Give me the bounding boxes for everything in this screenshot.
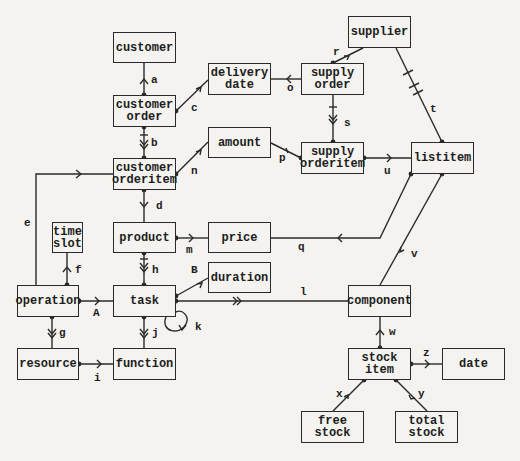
entity-time-slot: time slot [52, 222, 83, 253]
entity-resource: resource [17, 348, 79, 380]
rel-label-w: w [389, 327, 396, 338]
rel-label-s: s [344, 118, 351, 129]
rel-label-e: e [24, 218, 31, 229]
diagram-canvas: customer delivery date supplier customer… [0, 0, 520, 461]
entity-free-stock: free stock [301, 411, 364, 443]
entity-total-stock: total stock [395, 411, 458, 443]
rel-label-q: q [298, 242, 305, 253]
rel-label-a: a [151, 75, 158, 86]
entity-customer-orderitem: customer orderitem [113, 158, 176, 190]
rel-label-b: b [151, 138, 158, 149]
rel-label-r: r [333, 47, 340, 58]
entity-operation: operation [17, 285, 79, 317]
rel-label-c: c [191, 103, 198, 114]
rel-label-o: o [287, 83, 294, 94]
rel-label-d: d [156, 201, 163, 212]
rel-label-v: v [411, 249, 418, 260]
entity-supplier: supplier [348, 16, 411, 48]
rel-label-B: B [191, 265, 198, 276]
entity-listitem: listitem [411, 142, 474, 174]
entity-date: date [442, 348, 505, 380]
rel-label-t: t [430, 104, 437, 115]
entity-price: price [208, 222, 271, 253]
entity-supply-orderitem: supply orderitem [301, 142, 364, 174]
entity-duration: duration [208, 262, 271, 293]
rel-label-y: y [418, 389, 425, 400]
entity-product: product [113, 222, 176, 253]
entity-customer: customer [113, 32, 176, 63]
rel-label-i: i [94, 373, 101, 384]
rel-label-m: m [186, 245, 193, 256]
rel-label-f: f [75, 265, 82, 276]
rel-label-k: k [195, 322, 202, 333]
rel-label-j: j [152, 328, 159, 339]
rel-label-h: h [152, 265, 159, 276]
entity-amount: amount [208, 127, 271, 158]
entity-supply-order: supply order [301, 63, 364, 95]
entity-component: component [348, 285, 411, 317]
rel-label-z: z [423, 348, 430, 359]
rel-label-x: x [336, 389, 343, 400]
entity-delivery-date: delivery date [208, 63, 271, 95]
entity-function: function [113, 348, 176, 380]
rel-label-u: u [384, 166, 391, 177]
rel-label-n: n [191, 166, 198, 177]
rel-label-l: l [300, 287, 307, 298]
rel-label-g: g [59, 328, 66, 339]
entity-stock-item: stock item [348, 348, 411, 380]
entity-task: task [113, 285, 176, 317]
entity-customer-order: customer order [113, 95, 176, 127]
rel-label-A: A [93, 308, 100, 319]
rel-label-p: p [279, 153, 286, 164]
